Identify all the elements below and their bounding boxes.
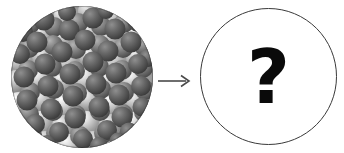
packed-sphere-sample bbox=[11, 6, 153, 148]
packed-sphere-texture bbox=[11, 6, 153, 148]
arrow-right-icon bbox=[157, 70, 193, 90]
figure-canvas: ? bbox=[0, 0, 344, 153]
transformation-arrow bbox=[157, 70, 193, 90]
question-mark-symbol: ? bbox=[201, 9, 336, 144]
unknown-result-circle: ? bbox=[200, 8, 337, 145]
